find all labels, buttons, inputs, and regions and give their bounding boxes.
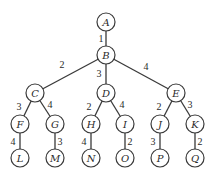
edge-weight-label: 4: [11, 136, 16, 147]
edge-weight-label: 2: [60, 59, 65, 70]
node-label: G: [51, 119, 59, 130]
node-label: O: [121, 153, 129, 164]
edge-weight-label: 4: [48, 99, 53, 110]
edge-weight-label: 4: [144, 61, 149, 72]
node-m: M: [46, 149, 64, 167]
node-layer: ABCDEFGHIJKLMNOPQ: [11, 13, 204, 167]
node-q: Q: [186, 149, 204, 167]
node-h: H: [82, 115, 100, 133]
node-e: E: [167, 84, 185, 102]
node-label: B: [101, 50, 109, 61]
edge-weight-label: 2: [87, 101, 92, 112]
node-d: D: [97, 84, 115, 102]
node-label: K: [190, 119, 199, 130]
edge-weight-label: 3: [17, 101, 22, 112]
node-label: N: [86, 153, 97, 164]
node-b: B: [97, 46, 115, 64]
node-label: F: [16, 119, 25, 130]
edge-weight-label: 2: [157, 101, 162, 112]
edge-weight-label: 3: [188, 99, 193, 110]
node-label: D: [101, 88, 110, 99]
node-k: K: [186, 115, 204, 133]
edge-b-e: [106, 55, 176, 93]
node-g: G: [46, 115, 64, 133]
node-n: N: [82, 149, 100, 167]
node-j: J: [151, 115, 169, 133]
node-o: O: [116, 149, 134, 167]
edge-weight-label: 2: [128, 136, 133, 147]
node-label: L: [16, 153, 24, 164]
edge-weight-label: 3: [97, 68, 102, 79]
node-f: F: [11, 115, 29, 133]
node-label: E: [171, 88, 180, 99]
edge-weight-label: 2: [198, 136, 203, 147]
edge-weight-label: 3: [151, 136, 156, 147]
node-label: M: [49, 153, 61, 164]
node-l: L: [11, 149, 29, 167]
node-p: P: [151, 149, 169, 167]
node-c: C: [26, 84, 44, 102]
edge-weight-label: 4: [82, 136, 87, 147]
node-i: I: [116, 115, 134, 133]
node-label: Q: [191, 153, 199, 164]
node-label: J: [156, 119, 163, 130]
edge-b-c: [35, 55, 106, 93]
node-label: A: [101, 17, 109, 28]
node-label: P: [156, 153, 164, 164]
node-label: H: [86, 119, 96, 130]
node-a: A: [97, 13, 115, 31]
edge-weight-label: 1: [99, 33, 104, 44]
weighted-tree-diagram: 1234342423434232 ABCDEFGHIJKLMNOPQ: [0, 0, 211, 175]
node-label: C: [31, 88, 39, 99]
edge-weight-label: 3: [58, 136, 63, 147]
edge-weight-label: 4: [120, 99, 125, 110]
